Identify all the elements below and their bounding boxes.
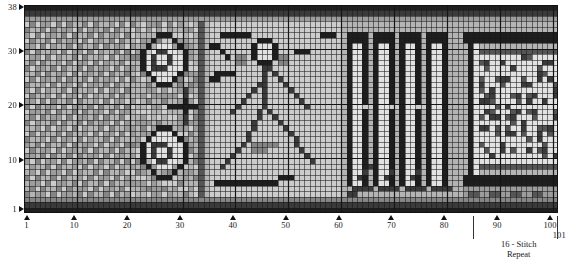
row-axis-tick-30: 30 [0,47,24,56]
stitch-axis-tick-label: 30 [176,220,185,230]
stitch-axis-tick-label: 1 [24,220,28,230]
stitch-axis-tick-label: 70 [387,220,396,230]
row-axis-tick-20: 20 [0,101,24,110]
stitch-axis-tick-70: 70 [377,215,405,230]
stitch-axis-tick-60: 60 [325,215,353,230]
row-axis-tick-label: 30 [8,47,17,56]
stitch-axis-tick-label: 60 [334,220,343,230]
stitch-axis-tick-30: 30 [166,215,194,230]
row-axis-tick-10: 10 [0,156,24,165]
row-axis-tick-1: 1 [0,205,24,214]
stitch-axis-tick-label: 20 [123,220,132,230]
stitch-axis-tick-80: 80 [430,215,458,230]
stitch-axis-tick-label: 80 [440,220,449,230]
stitch-axis-tick-40: 40 [219,215,247,230]
row-axis-tick-arrow-icon [19,4,24,10]
row-axis-tick-label: 20 [8,101,17,110]
row-axis-tick-label: 1 [13,205,17,214]
stitch-axis-tick-1: 1 [13,215,41,230]
stitch-pattern-chart: 383020101 1102030405060708090100101 16 -… [0,0,568,265]
stitch-axis-tick-label: 10 [70,220,79,230]
stitch-axis-tick-10: 10 [60,215,88,230]
row-axis-tick-arrow-icon [19,48,24,54]
row-axis-tick-arrow-icon [19,206,24,212]
row-axis-tick-arrow-icon [19,102,24,108]
row-axis-tick-38: 38 [0,3,24,12]
pattern-grid-canvas[interactable] [24,5,558,213]
stitch-repeat-label: 16 - Stitch Repeat [463,239,568,259]
stitch-axis-tick-label: 40 [228,220,237,230]
stitch-axis-tick-20: 20 [113,215,141,230]
stitch-repeat-line2: Repeat [466,249,568,259]
stitch-axis-tick-50: 50 [272,215,300,230]
stitch-repeat-line1: 16 - Stitch [501,239,536,249]
row-axis-tick-label: 10 [8,156,17,165]
row-axis-tick-label: 38 [8,3,17,12]
stitch-axis-tick-label: 50 [281,220,290,230]
pattern-grid[interactable] [24,5,558,213]
row-axis-tick-arrow-icon [19,157,24,163]
